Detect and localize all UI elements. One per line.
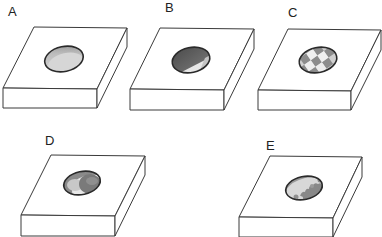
panel-label-b: B <box>165 0 174 15</box>
panel-d: D <box>21 133 145 236</box>
slab-front-face <box>21 215 115 236</box>
panel-label-e: E <box>266 138 275 153</box>
slab-front-face <box>258 90 351 110</box>
slab-front-face <box>3 88 97 108</box>
panel-label-d: D <box>45 133 54 148</box>
panel-label-c: C <box>288 5 297 20</box>
panel-b: B <box>130 0 254 110</box>
slab-d <box>21 155 145 236</box>
panel-a: A <box>3 4 127 108</box>
slab-front-face <box>130 89 224 110</box>
slab-front-face <box>239 217 333 237</box>
panel-label-a: A <box>8 4 17 19</box>
panel-c: C <box>258 5 381 110</box>
figure-canvas: A B <box>0 0 382 237</box>
panel-e: E <box>239 138 362 237</box>
